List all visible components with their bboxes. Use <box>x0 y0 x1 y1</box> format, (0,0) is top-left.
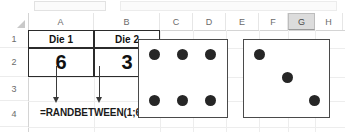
row-header-4-label: 4 <box>11 109 16 119</box>
die-2-pip <box>282 72 293 83</box>
die-1-pip <box>149 95 160 106</box>
column-header-f[interactable]: F <box>259 13 288 30</box>
row-header-1-label: 1 <box>11 34 16 44</box>
arrow-a2-stem <box>56 66 57 98</box>
column-header-c[interactable]: C <box>160 13 193 30</box>
row-header-3[interactable]: 3 <box>0 77 28 101</box>
die-2-pip <box>254 49 265 60</box>
column-header-h-label: H <box>325 17 332 27</box>
row-header-2[interactable]: 2 <box>0 48 28 77</box>
die-2-pip <box>309 95 320 106</box>
cell-a1-text: Die 1 <box>49 34 73 45</box>
column-header-h[interactable]: H <box>315 13 343 30</box>
toolbar-remnant <box>0 0 345 12</box>
column-header-c-label: C <box>173 17 180 27</box>
die-1-pip <box>205 95 216 106</box>
toolbar-chip-right <box>120 1 337 11</box>
spreadsheet-canvas: A B C D E F G H 1 2 3 4 <box>0 0 345 132</box>
column-header-f-label: F <box>270 17 276 27</box>
column-header-g[interactable]: G <box>288 13 315 30</box>
column-header-b-label: B <box>123 17 129 27</box>
cell-a1[interactable]: Die 1 <box>28 30 94 48</box>
row-header-3-label: 3 <box>11 84 16 94</box>
toolbar-chip-left <box>34 1 106 11</box>
column-header-d[interactable]: D <box>193 13 226 30</box>
column-header-e[interactable]: E <box>226 13 259 30</box>
arrow-a2-head-icon <box>53 97 59 103</box>
die-1 <box>138 39 228 118</box>
arrow-b2-stem <box>99 66 100 98</box>
select-all-corner-icon[interactable] <box>0 13 29 31</box>
row-header-2-label: 2 <box>11 57 16 67</box>
cell-b1-text: Die 2 <box>115 34 139 45</box>
column-header-g-label: G <box>298 17 305 27</box>
die-1-pip <box>149 49 160 60</box>
column-header-e-label: E <box>239 17 245 27</box>
column-header-a-label: A <box>57 17 63 27</box>
cell-b2-value: 3 <box>121 51 132 74</box>
column-header-b[interactable]: B <box>94 13 160 30</box>
arrow-b2-head-icon <box>96 97 102 103</box>
die-1-pip <box>177 49 188 60</box>
die-1-pip <box>205 49 216 60</box>
row-header-4[interactable]: 4 <box>0 101 28 127</box>
column-header-a[interactable]: A <box>28 13 94 30</box>
column-header-d-label: D <box>206 17 213 27</box>
cell-a2[interactable]: 6 <box>28 48 94 77</box>
formula-annotation: =RANDBETWEEN(1;6) <box>40 107 144 118</box>
die-2 <box>243 39 330 118</box>
gridline-horizontal <box>28 127 345 128</box>
row-header-1[interactable]: 1 <box>0 30 28 48</box>
die-1-pip <box>177 95 188 106</box>
